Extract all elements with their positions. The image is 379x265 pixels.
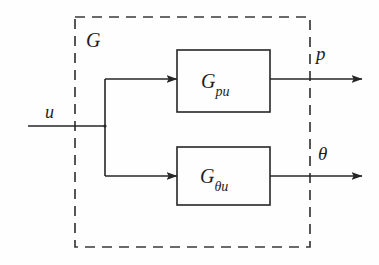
block-diagram-figure: G u p θ Gpu Gθu xyxy=(0,0,379,265)
input-label-u: u xyxy=(45,103,54,121)
block-label-gthetau-main: G xyxy=(200,165,214,187)
branch-node xyxy=(103,124,106,127)
output-label-p: p xyxy=(316,44,326,63)
block-label-gthetau-subscript: θu xyxy=(214,179,228,194)
output-label-theta: θ xyxy=(318,144,327,163)
system-boundary-g xyxy=(75,17,310,247)
block-label-gpu-main: G xyxy=(201,70,215,92)
system-label-g: G xyxy=(86,30,100,50)
block-label-gpu-subscript: pu xyxy=(215,84,229,99)
block-label-gthetau: Gθu xyxy=(200,166,228,191)
diagram-canvas xyxy=(0,0,379,265)
block-label-gpu: Gpu xyxy=(201,71,229,96)
